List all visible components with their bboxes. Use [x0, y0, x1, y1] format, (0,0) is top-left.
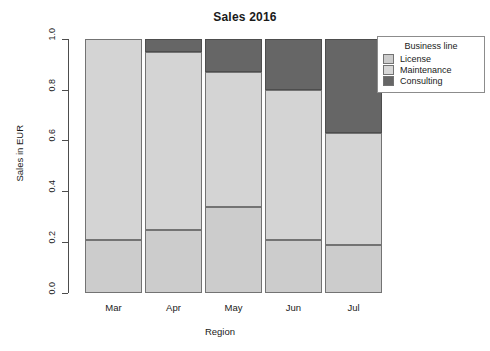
bar-segment-license: [85, 240, 142, 293]
legend-item-license: License: [383, 54, 479, 64]
bar-may: [205, 39, 262, 293]
x-tick-label-may: May: [205, 302, 262, 313]
legend-item-consulting: Consulting: [383, 76, 479, 86]
x-tick-label-jul: Jul: [325, 302, 382, 313]
y-tick-label: 0.2: [47, 231, 57, 244]
bar-segment-license: [205, 207, 262, 293]
y-tick-label: 0.6: [47, 129, 57, 142]
y-tick-label: 0.4: [47, 180, 57, 193]
bar-apr: [145, 39, 202, 293]
bar-segment-maintenance: [85, 39, 142, 240]
y-tick-mark: [62, 90, 68, 91]
y-tick-label: 0.8: [47, 79, 57, 92]
legend-label-maintenance: Maintenance: [400, 65, 452, 75]
bar-segment-license: [325, 245, 382, 293]
bar-segment-consulting: [325, 39, 382, 133]
page-title: Sales 2016: [0, 10, 490, 24]
bar-jul: [325, 39, 382, 293]
y-tick-label: 0.0: [47, 282, 57, 295]
legend-swatch-maintenance-icon: [383, 65, 394, 75]
y-tick-mark: [62, 242, 68, 243]
bar-segment-consulting: [145, 39, 202, 52]
bar-segment-consulting: [205, 39, 262, 72]
y-axis-title: Sales in EUR: [14, 125, 25, 182]
chart-root: Sales 2016 Sales in EUR 0.0 0.2 0.4 0.6 …: [0, 0, 490, 351]
x-tick-label-jun: Jun: [265, 302, 322, 313]
y-tick-mark: [62, 293, 68, 294]
bar-segment-maintenance: [265, 90, 322, 240]
bar-segment-license: [265, 240, 322, 293]
legend-item-maintenance: Maintenance: [383, 65, 479, 75]
x-tick-label-apr: Apr: [145, 302, 202, 313]
x-tick-label-mar: Mar: [85, 302, 142, 313]
legend-label-license: License: [400, 54, 431, 64]
legend-swatch-license-icon: [383, 54, 394, 64]
y-tick-mark: [62, 191, 68, 192]
bar-jun: [265, 39, 322, 293]
legend-swatch-consulting-icon: [383, 76, 394, 86]
y-tick-label: 1.0: [47, 28, 57, 41]
bar-segment-maintenance: [325, 133, 382, 245]
y-tick-mark: [62, 140, 68, 141]
legend-label-consulting: Consulting: [400, 76, 443, 86]
bar-mar: [85, 39, 142, 293]
bar-segment-license: [145, 230, 202, 294]
x-axis-title: Region: [0, 326, 440, 337]
legend: Business line License Maintenance Consul…: [377, 36, 485, 93]
bar-segment-maintenance: [145, 52, 202, 230]
y-tick-mark: [62, 39, 68, 40]
legend-title: Business line: [383, 41, 479, 51]
plot-area: [69, 39, 387, 293]
bar-segment-maintenance: [205, 72, 262, 207]
bar-segment-consulting: [265, 39, 322, 90]
